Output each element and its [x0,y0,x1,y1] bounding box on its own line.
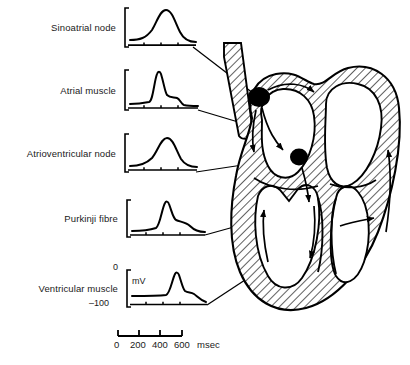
av-node-marker [290,149,308,166]
superior-vena-cava [224,43,253,139]
label-atrioventricular-node: Atrioventricular node [27,148,116,159]
bracket-atrial [125,70,129,110]
time-axis [118,330,182,336]
bracket-sinoatrial [125,8,129,47]
time-tick-400: 400 [152,339,168,350]
trace-atrioventricular-node [125,134,197,172]
trace-sinoatrial-node [125,8,196,47]
cardiac-conduction-figure: Sinoatrial node Atrial muscle Atrioventr… [0,0,410,365]
heart-diagram [224,43,400,310]
label-purkinje-fibre: Purkinji fibre [64,213,118,224]
label-atrial-muscle: Atrial muscle [60,85,116,96]
voltage-top-label: 0 [113,262,118,272]
trace-atrial-muscle [125,70,198,110]
label-sinoatrial-node: Sinoatrial node [51,22,116,33]
voltage-unit-label: mV [132,276,146,286]
time-tick-0: 0 [114,339,119,350]
time-tick-200: 200 [130,339,146,350]
figure-canvas [0,0,410,365]
left-ventricle-cavity [331,186,369,282]
sa-node-marker [248,87,270,107]
waveform-sinoatrial [130,10,196,42]
time-tick-600: 600 [174,339,190,350]
voltage-bottom-label: –100 [89,298,109,308]
time-unit-label: msec [197,339,220,350]
bracket-av [125,134,129,172]
waveform-av [130,138,197,167]
trace-purkinje-fibre [127,200,205,237]
bracket-ventricular [127,270,131,307]
label-ventricular-muscle: Ventricular muscle [39,283,118,294]
waveform-atrial [130,72,198,106]
waveform-purkinje [132,202,205,232]
bracket-purkinje [127,200,131,237]
